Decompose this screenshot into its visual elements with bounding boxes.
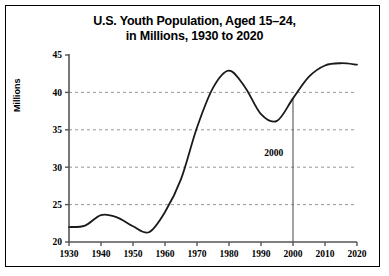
y-tick-label-35: 35 xyxy=(53,125,63,135)
x-tick-label-1980: 1980 xyxy=(220,249,239,259)
y-tick-label-20: 20 xyxy=(53,237,63,247)
data-series-line xyxy=(69,63,357,233)
y-tick-label-30: 30 xyxy=(53,163,63,173)
chart-plot-area: 2025303540451930194019501960197019801990… xyxy=(0,0,389,276)
x-tick-label-1960: 1960 xyxy=(156,249,175,259)
y-tick-label-25: 25 xyxy=(53,200,63,210)
x-tick-label-1990: 1990 xyxy=(252,249,271,259)
x-tick-label-2000: 2000 xyxy=(284,249,303,259)
y-tick-label-40: 40 xyxy=(53,88,63,98)
y-tick-label-45: 45 xyxy=(53,50,63,60)
x-tick-label-1930: 1930 xyxy=(60,249,79,259)
annotation-label-2000: 2000 xyxy=(264,148,283,158)
x-tick-label-1950: 1950 xyxy=(124,249,143,259)
x-tick-label-2020: 2020 xyxy=(348,249,367,259)
x-tick-label-1940: 1940 xyxy=(92,249,111,259)
line-chart-svg: 2025303540451930194019501960197019801990… xyxy=(0,0,389,276)
x-tick-label-1970: 1970 xyxy=(188,249,207,259)
x-tick-label-2010: 2010 xyxy=(316,249,335,259)
